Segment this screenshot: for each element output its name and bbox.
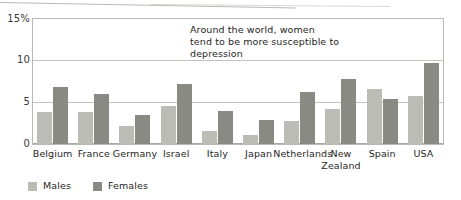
legend-item-females: Females [93, 181, 148, 191]
bar-females [53, 87, 68, 144]
legend-label-females: Females [108, 181, 148, 191]
chart-legend: Males Females [28, 179, 148, 193]
bar-females [341, 79, 356, 144]
y-tick-10: 10 [0, 55, 30, 65]
bar-males [325, 109, 340, 144]
x-axis-label: USA [397, 148, 450, 160]
bar-females [383, 99, 398, 144]
bar-females [300, 92, 315, 144]
bar-males [243, 135, 258, 144]
bar-males [78, 112, 93, 144]
bar-males [202, 131, 217, 144]
y-axis: 15% 10 5 0 [0, 0, 30, 200]
depression-by-gender-bar-chart: 15% 10 5 0 Around the world, women tend … [0, 0, 461, 200]
x-axis-labels: BelgiumFranceGermanyIsraelItalyJapanNeth… [32, 148, 444, 178]
y-tick-15: 15% [0, 14, 30, 24]
chart-annotation: Around the world, women tend to be more … [190, 24, 340, 61]
bar-group [32, 18, 73, 144]
bar-group [362, 18, 403, 144]
y-tick-5: 5 [0, 97, 30, 107]
bar-females [259, 120, 274, 144]
bar-females [424, 63, 439, 144]
legend-item-males: Males [28, 181, 71, 191]
bar-group [114, 18, 155, 144]
bar-males [37, 112, 52, 144]
legend-swatch-females-icon [93, 182, 102, 191]
bar-females [177, 84, 192, 144]
bar-males [284, 121, 299, 144]
bar-males [408, 96, 423, 144]
bar-males [161, 106, 176, 144]
bar-group [403, 18, 444, 144]
legend-label-males: Males [43, 181, 71, 191]
bar-females [218, 111, 233, 144]
bar-males [367, 89, 382, 144]
bar-females [135, 115, 150, 144]
bar-males [119, 126, 134, 144]
bar-group [73, 18, 114, 144]
legend-swatch-males-icon [28, 182, 37, 191]
bar-females [94, 94, 109, 144]
